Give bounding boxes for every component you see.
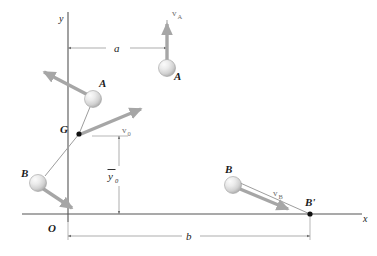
vector-vA: v A [167, 8, 183, 62]
ball-A-final-label: A [173, 70, 181, 82]
ball-B-initial: B [20, 167, 47, 192]
diagram-canvas: y x O a b y 0 [0, 0, 377, 256]
dim-b-label: b [186, 230, 192, 242]
x-axis-label: x [362, 213, 368, 224]
dimension-ybar0: y 0 [92, 136, 128, 214]
dim-ybar0-subscript: 0 [115, 177, 119, 184]
dim-a-label: a [114, 42, 120, 54]
vector-vA-subscript: A [178, 13, 183, 20]
vector-ballA-recoil [44, 72, 90, 96]
dimension-a: a [68, 42, 167, 60]
origin-label: O [48, 222, 56, 234]
point-G: G [60, 123, 82, 137]
vector-ballA-recoil-arrow [44, 72, 90, 96]
ball-B-initial-label: B [20, 167, 28, 179]
dim-ybar0-label-group: y 0 [107, 170, 119, 185]
point-Bprime-label: B' [304, 196, 315, 208]
point-G-dot [76, 131, 81, 136]
physics-diagram-figure: y x O a b y 0 [0, 0, 377, 256]
vector-v0-label: v [122, 125, 127, 135]
vector-vB-label: v [273, 188, 278, 198]
ball-A-initial-circle [85, 91, 102, 108]
dimension-b: b [68, 212, 310, 242]
ball-A-final: A [159, 60, 182, 83]
ball-A-initial: A [85, 77, 107, 108]
point-G-label: G [60, 123, 68, 135]
ball-A-initial-label: A [98, 77, 106, 89]
ball-B-final-circle [225, 177, 242, 194]
dim-ybar0-label: y [107, 170, 113, 182]
vector-vA-label: v [172, 8, 177, 18]
vector-v0-arrow [81, 109, 141, 134]
ball-B-final-label: B [224, 163, 232, 175]
ball-B-initial-circle [30, 175, 47, 192]
link-G-to-ballB [45, 134, 79, 176]
vector-v0: v 0 [81, 109, 141, 137]
ball-B-final: B [224, 163, 242, 194]
vector-v0-subscript: 0 [128, 130, 131, 137]
ball-A-final-circle [159, 60, 176, 77]
y-axis-label: y [58, 13, 64, 24]
coordinate-axes: y x O [22, 12, 368, 234]
vector-vB: v B [240, 188, 288, 209]
vector-vB-subscript: B [279, 193, 284, 200]
point-Bprime-dot [307, 211, 312, 216]
